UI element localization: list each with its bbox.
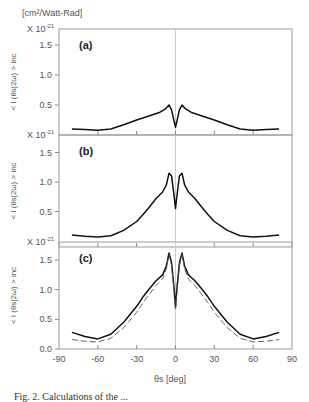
y-tick-label: 1.5 bbox=[39, 148, 52, 158]
y-axis-label: < I (θs|2ω) > inc bbox=[9, 53, 18, 110]
y-tick-label: 0.5 bbox=[39, 314, 52, 324]
panel-a: 0.51.01.5X 10-21(a)< I (θs|2ω) > inc bbox=[9, 23, 292, 135]
panel-b: 0.51.01.5X 10-21(b)< I (θs|2ω) > inc bbox=[9, 129, 292, 247]
panel-c: 0.00.51.01.5X 10-21(c)< I (θs|2ω) > inc bbox=[9, 236, 292, 354]
y-tick-label: 1.0 bbox=[39, 177, 52, 187]
x-tick-label: -90 bbox=[52, 354, 65, 364]
units-label: [cm²/Watt-Rad] bbox=[22, 8, 82, 18]
x-tick-label: 60 bbox=[248, 354, 258, 364]
panels: 0.51.01.5X 10-21(a)< I (θs|2ω) > inc0.51… bbox=[9, 23, 292, 354]
x-axis: -90-60-300306090 bbox=[52, 354, 297, 364]
y-axis-label: < I (θs|2ω) > inc bbox=[9, 162, 18, 219]
y-tick-label: 0.0 bbox=[39, 344, 52, 354]
x-tick-label: 90 bbox=[287, 354, 297, 364]
x-tick-label: -30 bbox=[130, 354, 143, 364]
x-axis-label: θs [deg] bbox=[154, 374, 186, 384]
scale-label: X 10-21 bbox=[27, 129, 55, 140]
x-tick-label: -60 bbox=[91, 354, 104, 364]
scale-label: X 10-21 bbox=[27, 236, 55, 247]
y-tick-label: 1.0 bbox=[39, 285, 52, 295]
x-tick-label: 0 bbox=[173, 354, 178, 364]
y-tick-label: 1.0 bbox=[39, 70, 52, 80]
figure-caption: Fig. 2. Calculations of the ... bbox=[14, 391, 128, 402]
y-tick-label: 1.5 bbox=[39, 40, 52, 50]
y-axis-label: < I (θs|2ω) > inc bbox=[9, 267, 18, 324]
panel-label: (b) bbox=[79, 145, 93, 157]
y-tick-label: 0.5 bbox=[39, 100, 52, 110]
x-tick-label: 30 bbox=[209, 354, 219, 364]
y-tick-label: 0.5 bbox=[39, 207, 52, 217]
y-tick-label: 1.5 bbox=[39, 255, 52, 265]
panel-label: (a) bbox=[79, 39, 93, 51]
scale-label: X 10-21 bbox=[27, 23, 55, 34]
panel-label: (c) bbox=[79, 252, 93, 264]
